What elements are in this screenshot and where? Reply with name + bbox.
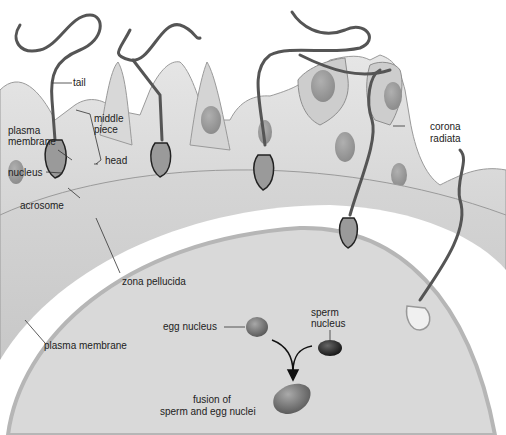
label-head: head	[105, 155, 127, 166]
fertilization-diagram: tail middle piece plasma membrane head n…	[0, 0, 506, 435]
label-zona-pellucida: zona pellucida	[122, 276, 186, 287]
sperm-nucleus-shape	[318, 340, 342, 356]
label-sperm-plasma-membrane-line1: plasma	[8, 125, 40, 136]
label-egg-plasma-membrane: plasma membrane	[44, 340, 127, 351]
label-tail: tail	[73, 77, 86, 88]
egg-nucleus-shape	[246, 317, 268, 337]
label-egg-nucleus: egg nucleus	[163, 321, 217, 332]
label-acrosome: acrosome	[20, 200, 64, 211]
diagram-illustration	[0, 0, 506, 435]
label-corona-radiata-line1: corona	[430, 121, 461, 132]
label-sperm-plasma-membrane-line2: membrane	[8, 136, 56, 147]
label-fusion-line2: sperm and egg nuclei	[160, 406, 256, 417]
label-sperm-nucleus-line1: sperm	[311, 307, 339, 318]
label-corona-radiata-line2: radiata	[430, 133, 461, 144]
label-middle-piece-line2: piece	[94, 124, 118, 135]
label-nucleus: nucleus	[8, 167, 42, 178]
label-sperm-nucleus-line2: nucleus	[311, 318, 345, 329]
label-middle-piece-line1: middle	[94, 113, 123, 124]
label-fusion-line1: fusion of	[193, 394, 231, 405]
